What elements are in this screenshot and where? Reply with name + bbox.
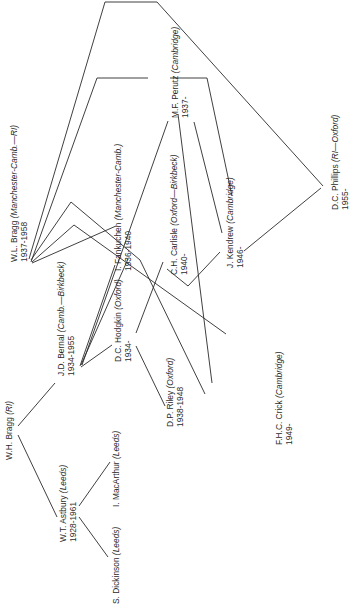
node-crick: F.H.C. Crick (Cambridge) 1949- (274, 351, 294, 445)
node-name: D.P. Riley (Oxford) (165, 358, 175, 427)
node-years: 1934- (123, 340, 133, 362)
node-name: D.C. Phillips (RI—Oxford) (330, 114, 340, 210)
node-astbury: W.T. Astbury (Leeds) 1928-1961 (58, 465, 78, 542)
node-years: 1940- (179, 253, 189, 275)
node-name: W.T. Astbury (Leeds) (58, 465, 68, 542)
node-name: I. Fankuchen (Manchester-Camb.) (113, 143, 123, 271)
node-name: F.H.C. Crick (Cambridge) (274, 351, 284, 445)
node-years: 1934-1955 (66, 336, 76, 376)
node-years: 1928-1961 (68, 502, 78, 542)
genealogy-diagram: W.H. Bragg (RI) W.L. Bragg (Manchester-C… (0, 0, 352, 606)
node-name: J. Kendrew (Cambridge) (225, 177, 235, 268)
node-phillips: D.C. Phillips (RI—Oxford) 1955- (330, 114, 350, 210)
node-kendrew: J. Kendrew (Cambridge) 1946- (225, 177, 245, 268)
node-years: 1938-1948 (175, 387, 185, 427)
node-years: 1946- (235, 246, 245, 268)
edge-whbragg-bernal (18, 383, 55, 426)
node-wl-bragg: W.L. Bragg (Manchester-Camb.—RI) 1937-19… (9, 125, 29, 262)
node-years: 1936-1940 (123, 231, 133, 271)
edge-hodgkin-riley (136, 346, 165, 406)
node-name: I. MacArthur (Leeds) (111, 430, 121, 507)
edge-wlbragg-fankuchen (32, 226, 116, 263)
node-fankuchen: I. Fankuchen (Manchester-Camb.) 1936-194… (113, 143, 133, 271)
edge-perutz-crick (178, 114, 212, 383)
node-years: 1955- (340, 188, 350, 210)
node-years: 1937- (180, 96, 190, 118)
node-years: 1949- (284, 423, 294, 445)
node-macarthur: I. MacArthur (Leeds) (111, 430, 121, 507)
node-wh-bragg: W.H. Bragg (RI) (4, 401, 14, 460)
node-name: J.D. Bernal (Camb.—Birkbeck) (56, 261, 66, 376)
edge-bernal-carlisle (80, 265, 115, 366)
node-labels: W.H. Bragg (RI) W.L. Bragg (Manchester-C… (4, 27, 350, 604)
edge-whbragg-astbury (18, 435, 57, 517)
node-name: S. Dickinson (Leeds) (111, 527, 121, 604)
node-carlisle: C.H. Carlisle (Oxford—Birkbeck) 1940- (169, 154, 189, 275)
node-name: M.F. Perutz (Cambridge) (170, 27, 180, 118)
edge-astbury-dickinson (79, 517, 108, 557)
node-dickinson: S. Dickinson (Leeds) (111, 527, 121, 604)
node-name: W.H. Bragg (RI) (4, 401, 14, 460)
edge-bernal-hodgkin (81, 345, 112, 367)
edge-astbury-macarthur (79, 462, 110, 506)
node-hodgkin: D.C. Hodgkin (Oxford) 1934- (113, 279, 133, 362)
edge-perutz-kendrew (194, 122, 222, 233)
node-bernal: J.D. Bernal (Camb.—Birkbeck) 1934-1955 (56, 261, 76, 376)
edge-carlisle-kendrew (188, 252, 220, 286)
node-name: C.H. Carlisle (Oxford—Birkbeck) (169, 154, 179, 275)
node-perutz: M.F. Perutz (Cambridge) 1937- (170, 27, 190, 118)
node-name: D.C. Hodgkin (Oxford) (113, 279, 123, 362)
node-riley: D.P. Riley (Oxford) 1938-1948 (165, 358, 185, 427)
edge-kendrew-phillips (244, 188, 321, 251)
node-years: 1937-1958 (19, 222, 29, 262)
node-name: W.L. Bragg (Manchester-Camb.—RI) (9, 125, 19, 262)
